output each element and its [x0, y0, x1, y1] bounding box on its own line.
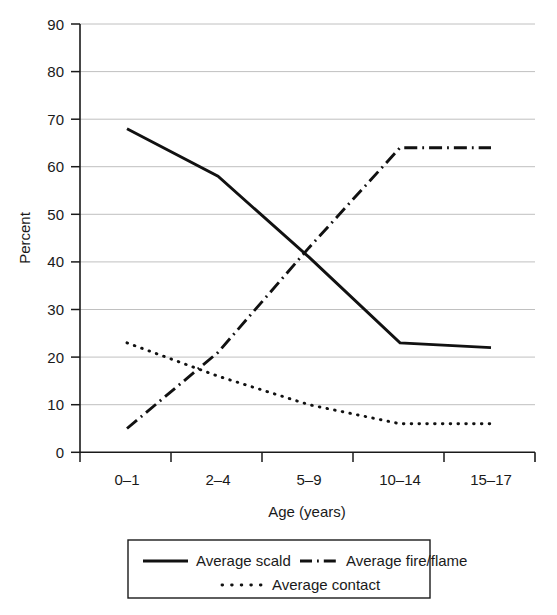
y-tick-labels: 90 80 70 60 50 40 30 20 10 0	[47, 16, 64, 461]
y-tick-label-20: 20	[47, 349, 64, 366]
y-tick-label-30: 30	[47, 301, 64, 318]
y-tick-label-10: 10	[47, 396, 64, 413]
legend-label-average-scald: Average scald	[196, 552, 291, 569]
series-average-contact	[127, 343, 491, 424]
y-tick-marks	[71, 24, 80, 452]
x-tick-label-5-9: 5–9	[296, 471, 321, 488]
line-chart: 90 80 70 60 50 40 30 20 10 0 Percent 0–1…	[0, 0, 557, 615]
x-axis-title: Age (years)	[268, 503, 346, 520]
y-axis-title: Percent	[16, 211, 33, 264]
legend-label-average-fire-flame: Average fire/flame	[346, 552, 467, 569]
x-tick-label-0-1: 0–1	[114, 471, 139, 488]
legend: Average scald Average fire/flame Average…	[128, 540, 467, 598]
y-tick-label-90: 90	[47, 16, 64, 33]
y-tick-label-60: 60	[47, 158, 64, 175]
x-tick-marks	[80, 452, 444, 462]
y-tick-label-70: 70	[47, 111, 64, 128]
series-average-scald	[127, 129, 491, 348]
chart-figure: 90 80 70 60 50 40 30 20 10 0 Percent 0–1…	[0, 0, 557, 615]
series-average-fire-flame	[127, 148, 491, 429]
x-tick-label-10-14: 10–14	[379, 471, 421, 488]
y-tick-label-0: 0	[56, 444, 64, 461]
legend-label-average-contact: Average contact	[272, 576, 381, 593]
axis-lines	[80, 24, 535, 462]
y-tick-label-50: 50	[47, 206, 64, 223]
y-tick-label-80: 80	[47, 63, 64, 80]
x-tick-label-2-4: 2–4	[205, 471, 230, 488]
x-tick-labels: 0–1 2–4 5–9 10–14 15–17	[114, 471, 511, 488]
y-tick-label-40: 40	[47, 253, 64, 270]
x-tick-label-15-17: 15–17	[470, 471, 512, 488]
data-series-group	[127, 129, 491, 429]
